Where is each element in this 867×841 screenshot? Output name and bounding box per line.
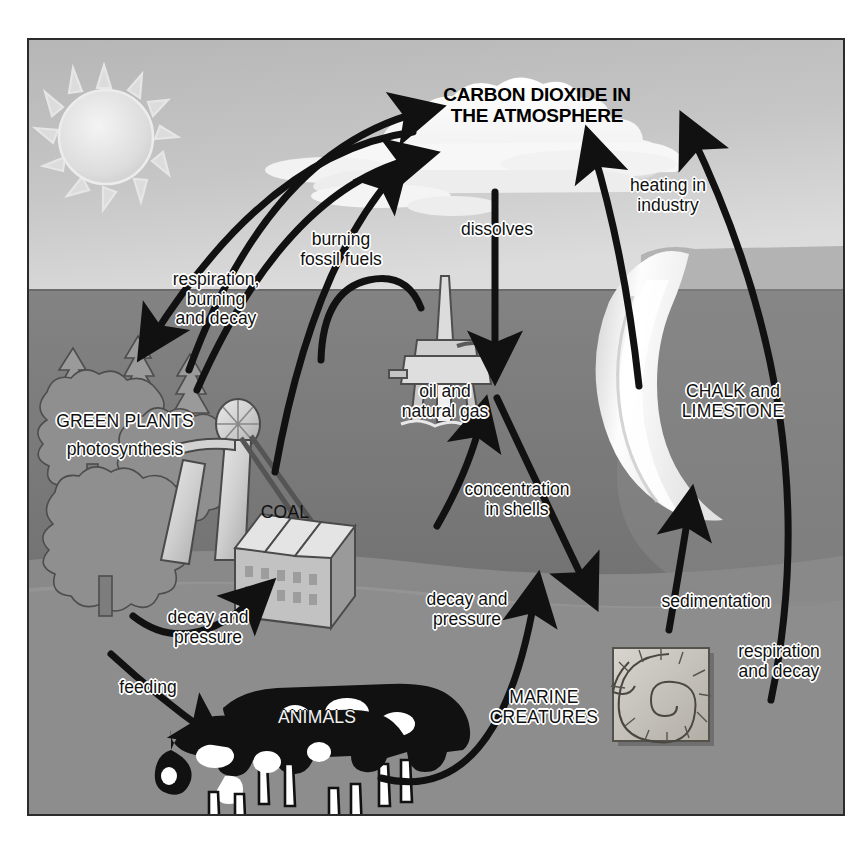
coal-factory [235,514,355,628]
scene-svg [29,40,843,814]
ammonite-fossil [611,648,714,746]
scene-artwork [29,40,843,814]
diagram-frame: CARBON DIOXIDE IN THE ATMOSPHERE respira… [27,38,845,816]
diagram-canvas: CARBON DIOXIDE IN THE ATMOSPHERE respira… [0,0,867,841]
